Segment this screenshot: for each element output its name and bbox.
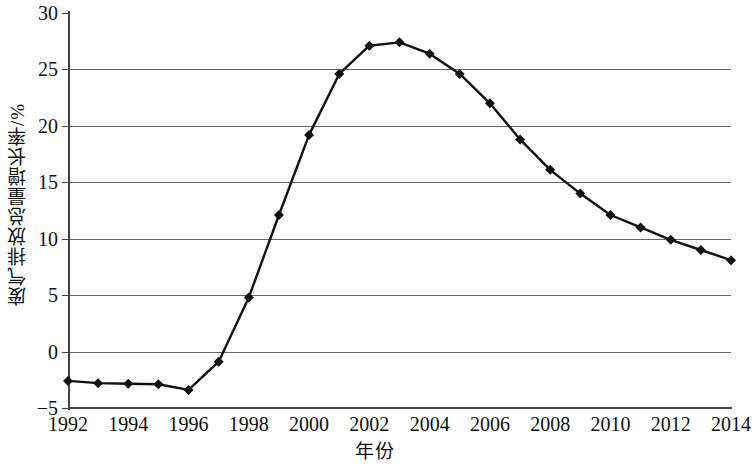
- y-tick-label: 20: [14, 116, 58, 136]
- x-axis-title-text: 年份: [355, 441, 395, 462]
- data-point-marker: [666, 235, 676, 245]
- data-point-marker: [636, 222, 646, 232]
- plot-area: [68, 13, 731, 408]
- y-tick-label: 30: [14, 3, 58, 23]
- data-point-marker: [244, 292, 254, 302]
- data-point-marker: [153, 379, 163, 389]
- data-point-marker: [726, 255, 736, 265]
- x-tick-label: 2014: [696, 414, 756, 434]
- y-tick-label: 5: [14, 285, 58, 305]
- y-tick-label: 0: [14, 342, 58, 362]
- data-point-marker: [63, 376, 73, 386]
- data-point-marker: [395, 37, 405, 47]
- data-point-marker: [123, 379, 133, 389]
- series-line: [68, 42, 731, 390]
- y-tick-label: 25: [14, 59, 58, 79]
- data-series-line: [68, 13, 731, 408]
- data-point-marker: [274, 210, 284, 220]
- data-point-marker: [304, 130, 314, 140]
- data-point-marker: [696, 245, 706, 255]
- y-tick-label: 15: [14, 172, 58, 192]
- x-axis-title: 年份: [0, 436, 750, 463]
- data-point-marker: [93, 378, 103, 388]
- y-tick-label: 10: [14, 229, 58, 249]
